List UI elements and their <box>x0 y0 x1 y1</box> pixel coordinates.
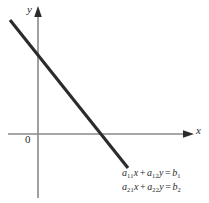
equation-annotations: a11x+a12y=b1 a21x+a22y=b2 <box>122 166 181 194</box>
eq1-operator: + <box>138 167 147 178</box>
eq1-coefficient-2-subscript: 12 <box>152 172 159 179</box>
origin-label: 0 <box>25 134 31 145</box>
y-axis-label: y <box>27 4 32 15</box>
linear-system-figure: y x 0 a11x+a12y=b1 a21x+a22y=b2 <box>0 0 209 203</box>
eq1-rhs-subscript: 1 <box>177 172 181 179</box>
eq2-variable-1: x <box>134 181 138 192</box>
system-line <box>10 20 128 168</box>
equation-line-1: a11x+a12y=b1 <box>122 166 181 180</box>
eq2-coefficient-1-subscript: 21 <box>127 186 134 193</box>
eq1-variable-2: y <box>159 167 163 178</box>
eq2-rhs-subscript: 2 <box>177 186 181 193</box>
equation-line-2: a21x+a22y=b2 <box>122 180 181 194</box>
eq2-operator: + <box>139 181 148 192</box>
x-axis-label: x <box>196 125 201 136</box>
x-axis-arrowhead <box>183 130 194 138</box>
eq2-coefficient-2-subscript: 22 <box>152 186 159 193</box>
y-axis-arrowhead <box>34 6 42 17</box>
eq1-coefficient-1-subscript: 11 <box>127 172 134 179</box>
eq1-equals-sign: = <box>164 167 173 178</box>
